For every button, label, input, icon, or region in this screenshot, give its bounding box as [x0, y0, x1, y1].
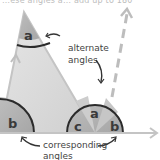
alternate-label-line2: angles: [68, 55, 98, 65]
angle-diagram: a b a c b alternate angles: [0, 0, 160, 160]
angle-letter-bottom-left-b: b: [8, 116, 17, 131]
corresponding-label-line1: corresponding: [43, 140, 107, 150]
alternate-label-line1: alternate: [68, 43, 109, 53]
corresponding-angles-annotation: corresponding angles: [21, 137, 116, 160]
dashed-parallel-arrow-icon: [112, 9, 132, 97]
corresponding-label-line2: angles: [43, 151, 73, 160]
angle-letter-top-a: a: [24, 28, 33, 43]
angle-letter-right-c: c: [74, 119, 82, 134]
angle-letter-right-a: a: [90, 106, 99, 121]
angle-letter-right-b: b: [110, 119, 119, 134]
